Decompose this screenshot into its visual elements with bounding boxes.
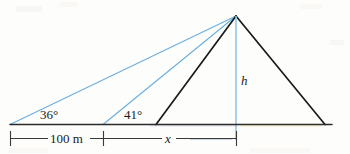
angle-label-right: 41° [124, 108, 142, 121]
angle-label-left: 36° [40, 108, 58, 121]
mountain-right-slope-icon [236, 16, 325, 125]
mountain-left-slope-icon [156, 16, 236, 125]
elevation-diagram: 36° 41° h 100 m x [0, 0, 350, 154]
distance-known-label: 100 m [50, 132, 83, 145]
height-label: h [241, 74, 248, 87]
distance-unknown-label: x [165, 132, 171, 145]
